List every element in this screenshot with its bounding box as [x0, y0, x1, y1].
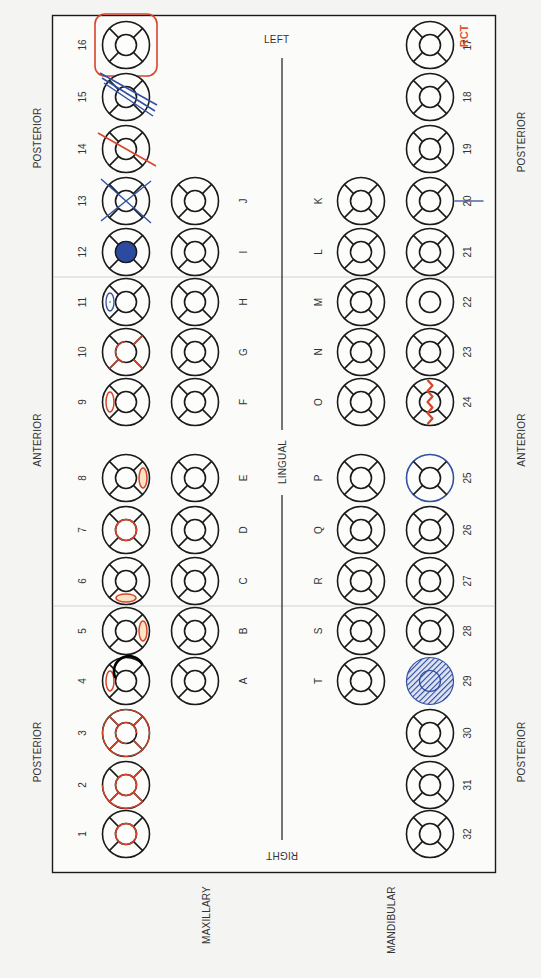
tooth-8[interactable] [103, 455, 150, 502]
label-bottom-posterior-2: POSTERIOR [516, 722, 527, 783]
label-lingual: LINGUAL [277, 437, 288, 487]
tooth-number-11: 11 [77, 297, 88, 307]
tooth-number-30: 30 [462, 727, 473, 738]
tooth-number-13: 13 [77, 195, 88, 206]
tooth-5[interactable] [103, 608, 150, 655]
primary-tooth-O[interactable] [338, 379, 385, 426]
tooth-2[interactable] [103, 762, 150, 809]
primary-tooth-J[interactable] [172, 178, 219, 225]
primary-tooth-H[interactable] [172, 279, 219, 326]
primary-letter-I: I [238, 251, 249, 254]
primary-letter-M: M [313, 298, 324, 306]
primary-tooth-I[interactable] [172, 229, 219, 276]
primary-tooth-S[interactable] [338, 608, 385, 655]
tooth-number-26: 26 [462, 524, 473, 535]
tooth-25[interactable] [407, 455, 454, 502]
tooth-number-20: 20 [462, 195, 473, 206]
tooth-1[interactable] [103, 811, 150, 858]
tooth-28[interactable] [407, 608, 454, 655]
tooth-12[interactable] [103, 229, 150, 276]
tooth-number-32: 32 [462, 828, 473, 839]
tooth-number-9: 9 [77, 399, 88, 405]
tooth-21[interactable] [407, 229, 454, 276]
primary-letter-O: O [313, 398, 324, 406]
label-bottom-posterior: POSTERIOR [516, 112, 527, 173]
tooth-number-7: 7 [77, 527, 88, 533]
tooth-number-27: 27 [462, 575, 473, 586]
tooth-6[interactable] [103, 558, 150, 605]
tooth-10[interactable] [103, 329, 150, 376]
tooth-number-8: 8 [77, 475, 88, 481]
label-right: RIGHT [266, 850, 298, 861]
tooth-27[interactable] [407, 558, 454, 605]
tooth-number-23: 23 [462, 346, 473, 357]
tooth-19[interactable] [407, 126, 454, 173]
primary-tooth-B[interactable] [172, 608, 219, 655]
label-top-anterior: ANTERIOR [32, 413, 43, 466]
tooth-30[interactable] [407, 710, 454, 757]
primary-letter-R: R [313, 577, 324, 584]
tooth-number-16: 16 [77, 39, 88, 50]
tooth-number-15: 15 [77, 91, 88, 102]
tooth-22[interactable] [407, 279, 454, 326]
tooth-31[interactable] [407, 762, 454, 809]
tooth-number-3: 3 [77, 730, 88, 736]
primary-tooth-G[interactable] [172, 329, 219, 376]
primary-letter-E: E [238, 475, 249, 482]
tooth-number-2: 2 [77, 782, 88, 788]
tooth-3[interactable] [103, 710, 150, 757]
primary-tooth-T[interactable] [338, 658, 385, 705]
tooth-17[interactable] [407, 22, 454, 69]
tooth-number-12: 12 [77, 246, 88, 257]
tooth-4[interactable] [103, 656, 150, 704]
primary-tooth-P[interactable] [338, 455, 385, 502]
tooth-number-31: 31 [462, 779, 473, 790]
primary-letter-C: C [238, 577, 249, 584]
primary-letter-P: P [313, 475, 324, 482]
label-mandibular: MANDIBULAR [386, 886, 397, 954]
primary-tooth-D[interactable] [172, 507, 219, 554]
tooth-18[interactable] [407, 74, 454, 121]
tooth-number-10: 10 [77, 346, 88, 357]
tooth-7[interactable] [103, 507, 150, 554]
primary-tooth-A[interactable] [172, 658, 219, 705]
tooth-24[interactable] [407, 379, 454, 426]
label-top-posterior-2: POSTERIOR [32, 722, 43, 783]
primary-tooth-Q[interactable] [338, 507, 385, 554]
primary-letter-F: F [238, 399, 249, 405]
tooth-29[interactable] [407, 658, 454, 705]
tooth-26[interactable] [407, 507, 454, 554]
primary-tooth-N[interactable] [338, 329, 385, 376]
tooth-13[interactable] [101, 178, 151, 225]
primary-letter-D: D [238, 526, 249, 533]
tooth-number-1: 1 [77, 831, 88, 837]
primary-tooth-K[interactable] [338, 178, 385, 225]
primary-tooth-F[interactable] [172, 379, 219, 426]
label-top-posterior: POSTERIOR [32, 108, 43, 169]
primary-letter-B: B [238, 628, 249, 635]
primary-letter-Q: Q [313, 526, 324, 534]
tooth-number-21: 21 [462, 246, 473, 257]
primary-letter-N: N [313, 348, 324, 355]
primary-letter-A: A [238, 678, 249, 685]
tooth-32[interactable] [407, 811, 454, 858]
tooth-number-19: 19 [462, 143, 473, 154]
primary-letter-H: H [238, 298, 249, 305]
tooth-number-29: 29 [462, 675, 473, 686]
tooth-number-25: 25 [462, 472, 473, 483]
label-bottom-anterior: ANTERIOR [516, 413, 527, 466]
primary-letter-T: T [313, 678, 324, 684]
tooth-23[interactable] [407, 329, 454, 376]
primary-tooth-L[interactable] [338, 229, 385, 276]
tooth-number-6: 6 [77, 578, 88, 584]
primary-tooth-R[interactable] [338, 558, 385, 605]
primary-tooth-C[interactable] [172, 558, 219, 605]
tooth-number-14: 14 [77, 143, 88, 154]
label-left: LEFT [264, 34, 289, 45]
primary-tooth-E[interactable] [172, 455, 219, 502]
primary-letter-J: J [238, 199, 249, 204]
tooth-11[interactable] [103, 279, 150, 326]
tooth-9[interactable] [103, 379, 150, 426]
tooth-number-18: 18 [462, 91, 473, 102]
primary-tooth-M[interactable] [338, 279, 385, 326]
